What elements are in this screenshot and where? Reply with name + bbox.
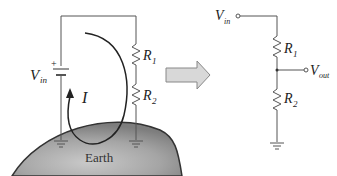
r2-sub: 2 [152,96,157,106]
earth-label: Earth [85,150,114,165]
current-label: I [81,89,88,106]
transform-arrow-icon [166,61,210,89]
plus-sign: + [51,58,57,69]
voltage-divider-diagram: V in + I R 1 R 2 Earth V in R 1 R 2 V ou… [0,0,337,176]
r1-label: R [283,41,293,56]
vout-sub: out [319,71,330,80]
r2-label: R [283,91,293,106]
r1-sub: 1 [152,56,157,66]
source-sub: in [40,75,48,85]
ground-icon [270,143,284,149]
r1-sub: 1 [293,49,298,59]
junction-node [276,69,279,72]
right-circuit [236,14,308,142]
r2-label: R [142,88,152,103]
vin-sub: in [224,17,230,26]
r2-sub: 2 [293,99,298,109]
r1-label: R [142,48,152,63]
